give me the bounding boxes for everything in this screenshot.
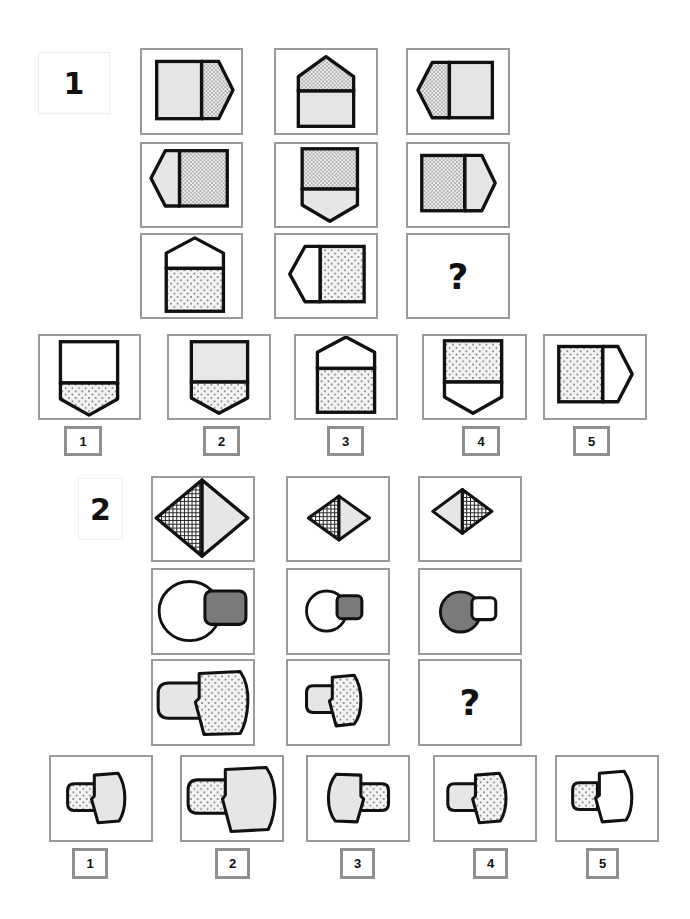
stub-head-icon [153, 661, 253, 744]
pentagon-right-icon [408, 144, 508, 226]
puzzle-1-cell-r1c2 [274, 48, 378, 135]
puzzle-1-cell-r3c1 [140, 233, 243, 319]
question-mark-icon: ? [420, 661, 520, 744]
puzzle-1-cell-r2c3 [406, 142, 510, 228]
pentagon-left-icon [276, 235, 376, 317]
diamond-icon [420, 478, 520, 560]
pentagon-up-icon [276, 50, 376, 133]
puzzle-2-option-4[interactable] [433, 755, 537, 842]
puzzle-1-option-3-number[interactable]: 3 [327, 426, 364, 456]
puzzle-2-cell-r1c2 [286, 476, 390, 562]
stub-head-icon [557, 757, 657, 840]
question-mark-icon: ? [408, 235, 508, 317]
puzzle-2-cell-r1c3 [418, 476, 522, 562]
puzzle-2-option-2[interactable] [180, 755, 284, 842]
puzzle-1-option-3[interactable] [294, 334, 398, 420]
pentagon-down-icon [276, 144, 376, 226]
puzzle-2-option-3[interactable] [306, 755, 410, 842]
puzzle-1-cell-r2c2 [274, 142, 378, 228]
puzzle-2-option-5[interactable] [555, 755, 659, 842]
stub-head-icon [182, 757, 282, 840]
pentagon-left-icon [142, 144, 241, 226]
puzzle-1-cell-r3c3-missing: ? [406, 233, 510, 319]
stub-head-icon [288, 661, 388, 744]
puzzle-2-option-3-number[interactable]: 3 [340, 848, 375, 879]
pentagon-down-icon [424, 336, 525, 418]
puzzle-1-cell-r1c1 [140, 48, 243, 135]
pentagon-down-icon [40, 336, 139, 418]
puzzle-2-cell-r3c3-missing: ? [418, 659, 522, 746]
circle-square-icon [153, 570, 253, 653]
pentagon-down-icon [169, 336, 269, 418]
diamond-icon [288, 478, 388, 560]
puzzle-2-cell-r2c1 [151, 568, 255, 655]
puzzle-1-option-4-number[interactable]: 4 [462, 426, 500, 456]
pentagon-up-icon [296, 336, 396, 418]
puzzle-1-option-2-number[interactable]: 2 [203, 426, 240, 456]
puzzle-1-option-1[interactable] [38, 334, 141, 420]
puzzle-2-cell-r2c2 [286, 568, 390, 655]
puzzle-2-option-4-number[interactable]: 4 [473, 848, 508, 879]
puzzle-2-cell-r3c2 [286, 659, 390, 746]
puzzle-2-option-5-number[interactable]: 5 [586, 848, 619, 879]
puzzle-1-option-5[interactable] [543, 334, 647, 420]
stub-head-icon-mirrored [308, 757, 408, 840]
diamond-icon [153, 478, 253, 560]
puzzle-1-number: 1 [64, 66, 85, 101]
puzzle-2-option-1[interactable] [49, 755, 153, 842]
puzzle-1-cell-r1c3 [406, 48, 510, 135]
stub-head-icon [51, 757, 151, 840]
puzzle-1-cell-r3c2 [274, 233, 378, 319]
puzzle-1-option-1-number[interactable]: 1 [64, 426, 102, 456]
puzzle-1-cell-r2c1 [140, 142, 243, 228]
puzzle-2-option-2-number[interactable]: 2 [215, 848, 250, 879]
puzzle-2-cell-r2c3 [418, 568, 522, 655]
stub-head-icon [435, 757, 535, 840]
pentagon-up-icon [142, 235, 241, 317]
puzzle-1-option-2[interactable] [167, 334, 271, 420]
circle-square-icon [288, 570, 388, 653]
pentagon-left-icon [408, 50, 508, 133]
puzzle-2-cell-r1c1 [151, 476, 255, 562]
pentagon-right-icon [142, 50, 241, 133]
puzzle-1-option-5-number[interactable]: 5 [573, 426, 610, 456]
pentagon-right-icon [545, 336, 645, 418]
puzzle-2-label: 2 [78, 478, 123, 540]
puzzle-2-number: 2 [90, 492, 111, 527]
puzzle-2-cell-r3c1 [151, 659, 255, 746]
circle-square-icon [420, 570, 520, 653]
puzzle-2-option-1-number[interactable]: 1 [72, 848, 108, 879]
puzzle-1-option-4[interactable] [422, 334, 527, 420]
puzzle-1-label: 1 [38, 52, 110, 114]
